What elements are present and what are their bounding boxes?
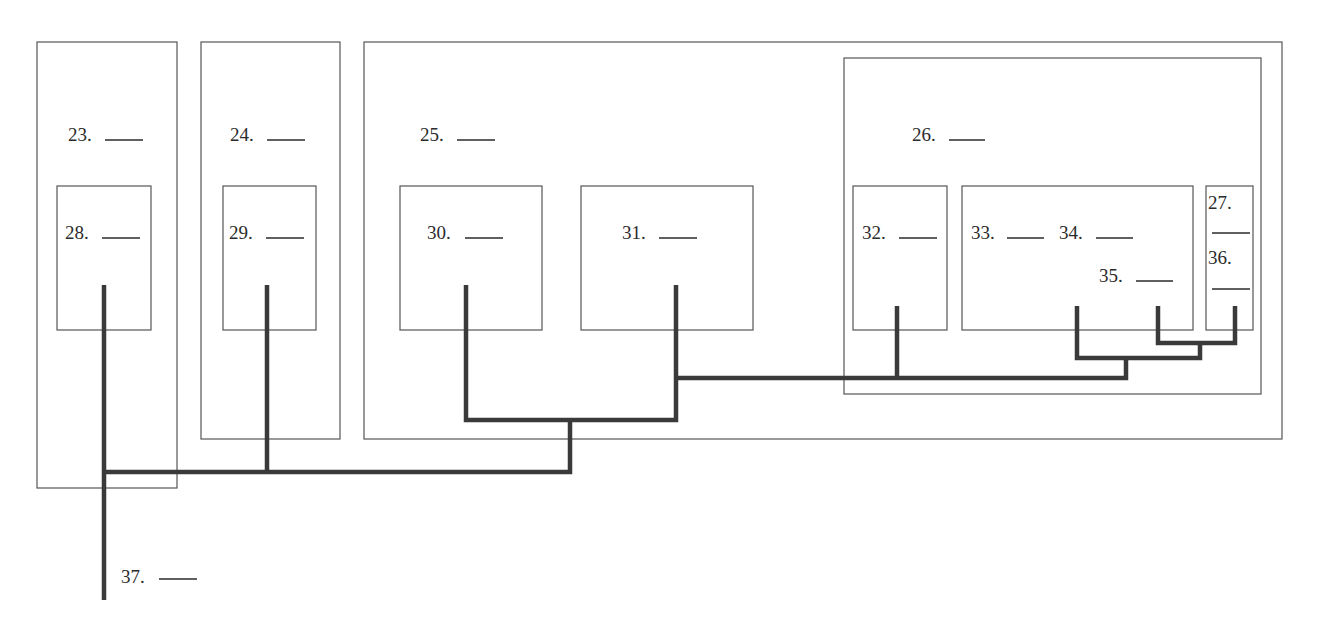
connector-lines	[104, 285, 1235, 600]
label-35-text: 35.	[1099, 265, 1123, 286]
label-34-text: 34.	[1059, 222, 1083, 243]
box-23	[37, 42, 177, 488]
box-31	[581, 186, 753, 330]
label-27: 27.	[1208, 192, 1250, 233]
label-26-text: 26.	[912, 124, 936, 145]
classification-diagram: 23. 24. 25. 26. 28. 29. 30. 31. 32. 33. …	[0, 0, 1319, 630]
label-31-text: 31.	[622, 222, 646, 243]
label-29-text: 29.	[229, 222, 253, 243]
label-32: 32.	[862, 222, 937, 243]
label-37-text: 37.	[121, 566, 145, 587]
label-25: 25.	[420, 124, 495, 145]
box-32	[853, 186, 947, 330]
label-37: 37.	[121, 566, 197, 587]
wire-30-31	[466, 285, 676, 420]
label-36-text: 36.	[1208, 247, 1232, 268]
label-25-text: 25.	[420, 124, 444, 145]
box-29	[223, 186, 316, 330]
label-27-text: 27.	[1208, 192, 1232, 213]
label-23: 23.	[68, 124, 143, 145]
wire-main-branch	[104, 420, 570, 472]
label-28: 28.	[65, 222, 140, 243]
wire-34-branch	[1077, 306, 1200, 358]
label-33: 33.	[971, 222, 1044, 243]
label-34: 34.	[1059, 222, 1133, 243]
label-36: 36.	[1208, 247, 1250, 289]
wire-35-36	[1158, 306, 1235, 343]
label-26: 26.	[912, 124, 985, 145]
label-35: 35.	[1099, 265, 1173, 286]
label-28-text: 28.	[65, 222, 89, 243]
wire-26-branch	[676, 358, 1126, 378]
label-24-text: 24.	[230, 124, 254, 145]
label-30-text: 30.	[427, 222, 451, 243]
label-30: 30.	[427, 222, 503, 243]
label-33-text: 33.	[971, 222, 995, 243]
label-31: 31.	[622, 222, 697, 243]
box-24	[201, 42, 340, 439]
label-32-text: 32.	[862, 222, 886, 243]
label-24: 24.	[230, 124, 305, 145]
box-30	[400, 186, 542, 330]
label-23-text: 23.	[68, 124, 92, 145]
label-29: 29.	[229, 222, 304, 243]
